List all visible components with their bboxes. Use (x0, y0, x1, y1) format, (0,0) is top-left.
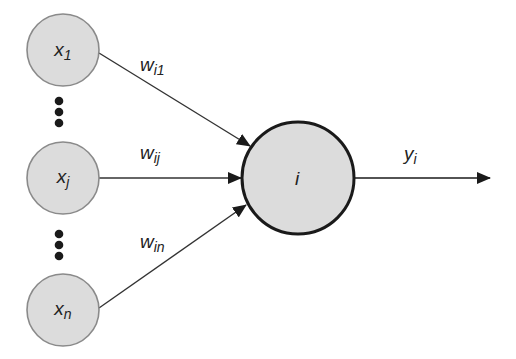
weight-label-win: win (140, 232, 165, 254)
input-label-x1-base: x (54, 39, 64, 60)
input-label-xj-base: x (57, 166, 67, 187)
weight-label-win-base: w (140, 231, 154, 252)
weight-label-wi1-base: w (140, 54, 154, 75)
weight-label-wij-sub: ij (154, 150, 160, 166)
output-label-yi-base: y (404, 143, 414, 164)
weight-label-wij: wij (140, 143, 160, 165)
weight-label-wi1: wi1 (140, 55, 165, 77)
weight-label-wij-base: w (140, 142, 154, 163)
input-label-xj-sub: j (66, 174, 69, 190)
weight-label-win-sub: in (154, 239, 165, 255)
neuron-label: i (295, 169, 299, 188)
input-label-xn-sub: n (64, 306, 72, 322)
input-label-x1-sub: 1 (64, 47, 72, 63)
edge-x1-to-neuron (99, 53, 250, 146)
input-label-xj: xj (57, 167, 70, 189)
ellipsis-dots-upper (55, 97, 64, 128)
ellipsis-dots-lower (55, 230, 64, 261)
output-label-yi: yi (404, 144, 417, 166)
input-label-xn: xn (54, 299, 71, 321)
input-label-x1: x1 (54, 40, 71, 62)
weight-label-wi1-sub: i1 (154, 62, 165, 78)
output-label-yi-sub: i (414, 151, 417, 167)
input-label-xn-base: x (54, 298, 64, 319)
neuron-diagram-canvas (0, 0, 516, 359)
edge-xn-to-neuron (99, 205, 246, 308)
